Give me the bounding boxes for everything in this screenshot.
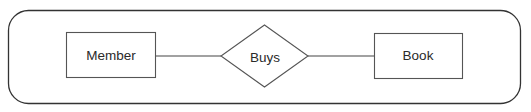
entity-member-label: Member xyxy=(86,48,136,63)
relationship-buys-label: Buys xyxy=(250,50,280,65)
entity-book-label: Book xyxy=(403,48,434,63)
